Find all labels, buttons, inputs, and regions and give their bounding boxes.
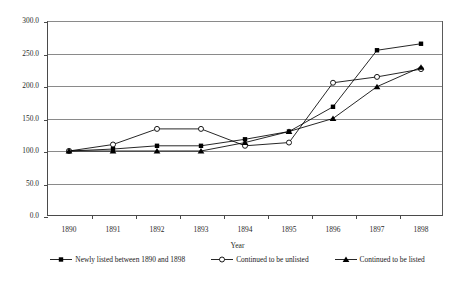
gridline	[48, 151, 442, 152]
legend-marker-filled-square-icon	[50, 255, 72, 264]
chart-legend: Newly listed between 1890 and 1898Contin…	[0, 255, 475, 264]
y-tick-label: 0.0	[0, 211, 39, 220]
legend-label: Newly listed between 1890 and 1898	[75, 256, 185, 263]
x-tick-label: 1898	[414, 225, 429, 234]
x-tick-mark	[312, 215, 313, 219]
x-tick-label: 1896	[326, 225, 341, 234]
x-tick-mark	[136, 215, 137, 219]
legend-item: Continued to be listed	[335, 255, 425, 264]
x-tick-mark	[400, 215, 401, 219]
legend-label: Continued to be listed	[360, 256, 425, 263]
y-tick-label: 200.0	[0, 81, 39, 90]
x-tick-mark	[356, 215, 357, 219]
x-tick-label: 1897	[370, 225, 385, 234]
x-tick-mark	[92, 215, 93, 219]
y-tick-mark	[44, 217, 48, 218]
y-tick-label: 300.0	[0, 16, 39, 25]
x-tick-mark	[224, 215, 225, 219]
gridline	[48, 119, 442, 120]
legend-label: Continued to be unlisted	[236, 256, 308, 263]
y-tick-mark	[44, 87, 48, 88]
y-tick-label: 50.0	[0, 179, 39, 188]
y-tick-mark	[44, 22, 48, 23]
legend-marker-filled-triangle-icon	[335, 255, 357, 264]
x-tick-mark	[268, 215, 269, 219]
y-tick-label: 150.0	[0, 114, 39, 123]
x-axis-title: Year	[0, 241, 475, 250]
x-tick-mark	[180, 215, 181, 219]
x-tick-label: 1894	[238, 225, 253, 234]
x-tick-label: 1893	[194, 225, 209, 234]
y-tick-mark	[44, 55, 48, 56]
y-tick-label: 100.0	[0, 146, 39, 155]
x-tick-label: 1895	[282, 225, 297, 234]
gridline	[48, 54, 442, 55]
x-tick-label: 1890	[62, 225, 77, 234]
gridline	[48, 184, 442, 185]
y-tick-mark	[44, 185, 48, 186]
legend-marker-open-circle-icon	[211, 255, 233, 264]
y-tick-mark	[44, 152, 48, 153]
plot-area	[47, 21, 443, 216]
chart-container: 0.050.0100.0150.0200.0250.0300.0 1890189…	[0, 0, 475, 283]
legend-item: Continued to be unlisted	[211, 255, 308, 264]
x-tick-label: 1892	[150, 225, 165, 234]
gridline	[48, 21, 442, 22]
y-tick-mark	[44, 120, 48, 121]
gridline	[48, 86, 442, 87]
y-tick-label: 250.0	[0, 49, 39, 58]
legend-item: Newly listed between 1890 and 1898	[50, 255, 185, 264]
x-tick-label: 1891	[106, 225, 121, 234]
